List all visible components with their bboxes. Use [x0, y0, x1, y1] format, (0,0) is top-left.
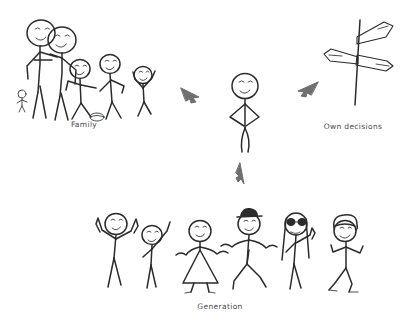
figure-peer-4 [221, 208, 277, 289]
icon-signpost: Own decisions [324, 20, 393, 131]
figure-child-3 [133, 67, 155, 117]
figure-parent-left [27, 20, 57, 118]
signpost-arm-right [356, 55, 393, 71]
group-family: Family [17, 20, 155, 129]
signpost-arm-upper-right [357, 22, 393, 44]
sketch-canvas: Family Own decisions [0, 0, 414, 328]
figure-peer-1 [96, 214, 138, 288]
group-generation: Generation [96, 208, 363, 311]
figure-peer-5 [282, 213, 315, 289]
arrow-decisions-to-center [298, 82, 318, 97]
figure-peer-2 [142, 222, 170, 288]
arrow-family-to-center [181, 88, 199, 103]
caption-family: Family [71, 120, 97, 129]
arrow-generation-to-center [236, 163, 244, 184]
signpost-arm-left [324, 49, 358, 64]
caption-own-decisions: Own decisions [324, 122, 383, 131]
figure-toddler [17, 90, 27, 112]
figure-peer-6 [329, 215, 363, 292]
figure-peer-3 [176, 221, 228, 294]
caption-generation: Generation [197, 302, 242, 311]
figure-child-2 [100, 55, 124, 120]
figure-individual [230, 74, 259, 153]
figure-child-1 [66, 60, 104, 122]
